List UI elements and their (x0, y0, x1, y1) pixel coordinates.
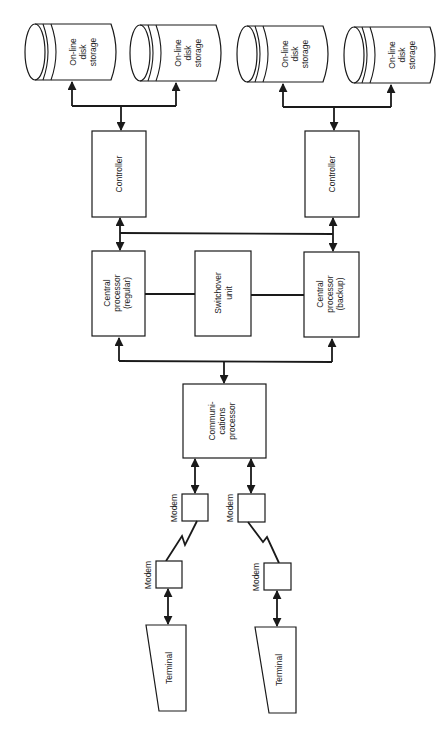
modem-upper-left: Modem (169, 494, 208, 522)
communications-processor: Communi- cations processor (183, 384, 266, 458)
phone-line-left (166, 521, 197, 561)
comms-label-line1: Communi- (207, 401, 217, 440)
controller-processor-links (120, 218, 333, 251)
disk-1: On-line disk storage (25, 24, 116, 80)
system-diagram: On-line disk storage On-line disk storag… (0, 0, 439, 741)
disk-label-line2: disk (397, 47, 407, 63)
processor-label-line1: Central (315, 280, 325, 308)
disk-label-line1: On-line (387, 41, 397, 69)
terminal-right: Terminal (255, 627, 296, 713)
modem-label: Modem (143, 561, 153, 589)
processor-label-line2: processor (325, 275, 335, 312)
disk-label-line3: storage (88, 38, 98, 67)
comms-label-line2: cations (217, 408, 227, 435)
modem-label: Modem (225, 494, 235, 522)
disk-end-icon (25, 24, 45, 80)
switchover-unit: Switchover unit (195, 251, 251, 336)
controller-left: Controller (92, 131, 146, 217)
controller-right: Controller (305, 131, 359, 217)
modem-terminal-links (168, 589, 277, 626)
modem-lower-right: Modem (251, 563, 291, 591)
central-processor-regular: Central processor (regular) (92, 251, 145, 336)
terminal-label: Terminal (164, 652, 174, 684)
disk-label-line1: On-line (173, 39, 183, 67)
central-processor-backup: Central processor (backup) (304, 252, 359, 337)
terminal-left: Terminal (146, 625, 186, 711)
disk-label-line3: storage (193, 39, 203, 68)
switchover-label-line1: Switchover (213, 272, 223, 314)
disk-end-icon (237, 26, 257, 82)
disk-label-line1: On-line (280, 40, 290, 68)
modem-upper-right: Modem (225, 494, 265, 522)
disk-label-line3: storage (407, 41, 417, 70)
disk-label-line1: On-line (68, 38, 78, 66)
comms-label-line3: processor (227, 402, 237, 439)
terminal-label: Terminal (274, 654, 284, 686)
disk-end-icon (130, 25, 150, 81)
processor-label-line3: (regular) (122, 277, 132, 309)
disk-label-line3: storage (300, 40, 310, 69)
modem-label: Modem (251, 563, 261, 591)
disk-end-icon (344, 27, 364, 83)
disk-label-line2: disk (78, 44, 88, 60)
comms-modem-links (195, 459, 251, 493)
controller-label: Controller (114, 155, 124, 192)
processor-label-line1: Central (102, 279, 112, 307)
processor-label-line2: processor (112, 274, 122, 311)
disk-bus-left (72, 82, 176, 130)
modem-lower-left: Modem (143, 561, 182, 589)
disk-label-line2: disk (183, 45, 193, 61)
disk-3: On-line disk storage (237, 26, 328, 82)
disk-bus-right (283, 84, 391, 130)
modem-label: Modem (169, 494, 179, 522)
phone-line-right (248, 522, 279, 563)
processor-label-line3: (backup) (335, 277, 345, 310)
controller-label: Controller (327, 155, 337, 192)
disk-4: On-line disk storage (344, 27, 435, 83)
disk-label-line2: disk (290, 46, 300, 62)
comms-bus (119, 338, 332, 383)
switchover-label-line2: unit (224, 286, 234, 300)
disk-2: On-line disk storage (130, 25, 221, 81)
